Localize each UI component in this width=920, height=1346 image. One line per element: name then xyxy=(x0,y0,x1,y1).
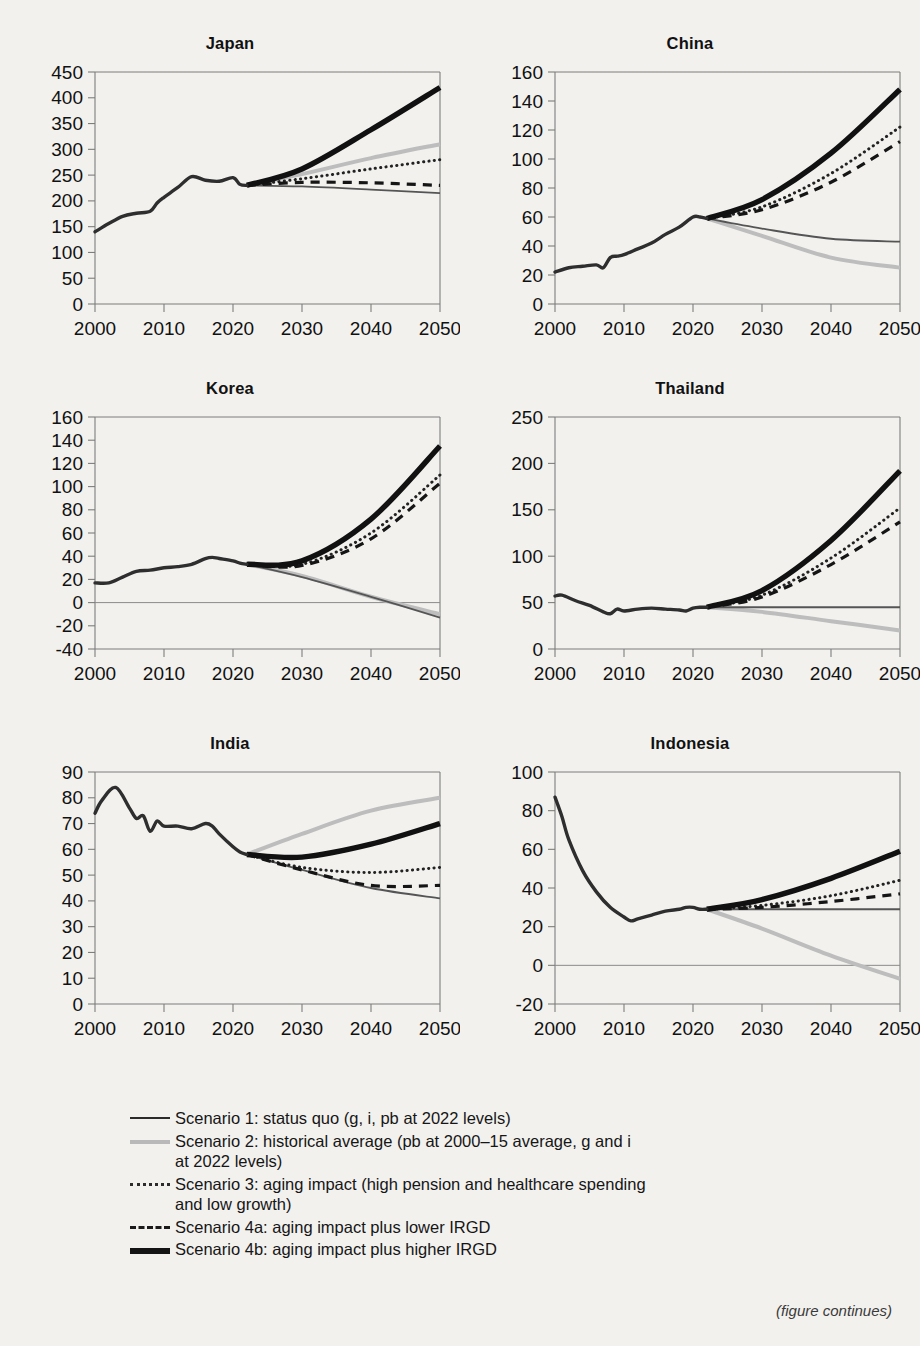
svg-text:40: 40 xyxy=(62,890,83,911)
plot-korea: -40-200204060801001201401602000201020202… xyxy=(0,401,460,701)
panel-china: China 0204060801001201401602000201020202… xyxy=(460,28,920,373)
panel-india: India 0102030405060708090200020102020203… xyxy=(0,728,460,1083)
legend-key-scenario-1-icon xyxy=(128,1108,172,1128)
panel-title-korea: Korea xyxy=(0,379,460,398)
plot-indonesia: -20020406080100200020102020203020402050 xyxy=(460,756,920,1056)
legend-item-scenario-4a: Scenario 4a: aging impact plus lower IRG… xyxy=(0,1217,920,1238)
svg-text:-20: -20 xyxy=(56,615,83,636)
svg-text:2000: 2000 xyxy=(74,318,116,339)
svg-text:2040: 2040 xyxy=(810,318,852,339)
plot-thailand: 050100150200250200020102020203020402050 xyxy=(460,401,920,701)
svg-text:0: 0 xyxy=(72,592,83,613)
legend-line-2: at 2022 levels) xyxy=(175,1151,631,1172)
legend-line-1: Scenario 2: historical average (pb at 20… xyxy=(175,1132,631,1150)
svg-text:2040: 2040 xyxy=(350,663,392,684)
svg-text:2050: 2050 xyxy=(419,663,460,684)
svg-text:2020: 2020 xyxy=(212,318,254,339)
svg-text:2040: 2040 xyxy=(350,318,392,339)
panel-title-india: India xyxy=(0,734,460,753)
svg-text:60: 60 xyxy=(62,839,83,860)
svg-text:100: 100 xyxy=(51,242,83,263)
svg-text:150: 150 xyxy=(511,499,543,520)
panel-korea: Korea -40-200204060801001201401602000201… xyxy=(0,373,460,728)
figure-page: Japan 0501001502002503003504004502000201… xyxy=(0,0,920,1346)
svg-text:50: 50 xyxy=(62,865,83,886)
svg-text:40: 40 xyxy=(522,236,543,257)
svg-text:2050: 2050 xyxy=(879,318,920,339)
svg-text:2050: 2050 xyxy=(879,663,920,684)
svg-text:160: 160 xyxy=(51,407,83,428)
svg-text:100: 100 xyxy=(511,546,543,567)
svg-text:2010: 2010 xyxy=(143,663,185,684)
legend-key-scenario-4b-icon xyxy=(128,1239,172,1259)
legend-key-scenario-4a-icon xyxy=(128,1217,172,1237)
svg-text:2020: 2020 xyxy=(672,1018,714,1039)
svg-text:60: 60 xyxy=(522,207,543,228)
legend-item-scenario-2: Scenario 2: historical average (pb at 20… xyxy=(0,1131,920,1172)
legend-item-scenario-3: Scenario 3: aging impact (high pension a… xyxy=(0,1174,920,1215)
legend-key-scenario-2-icon xyxy=(128,1131,172,1151)
svg-text:0: 0 xyxy=(532,955,543,976)
panel-title-indonesia: Indonesia xyxy=(460,734,920,753)
svg-text:50: 50 xyxy=(62,268,83,289)
panel-grid: Japan 0501001502002503003504004502000201… xyxy=(0,28,920,1083)
svg-text:2030: 2030 xyxy=(281,663,323,684)
svg-text:200: 200 xyxy=(511,453,543,474)
svg-text:60: 60 xyxy=(62,523,83,544)
svg-text:2030: 2030 xyxy=(741,318,783,339)
svg-text:20: 20 xyxy=(62,569,83,590)
svg-text:30: 30 xyxy=(62,916,83,937)
svg-text:2000: 2000 xyxy=(534,318,576,339)
svg-text:2050: 2050 xyxy=(879,1018,920,1039)
svg-text:60: 60 xyxy=(522,839,543,860)
svg-text:2030: 2030 xyxy=(741,1018,783,1039)
svg-text:2020: 2020 xyxy=(672,318,714,339)
svg-text:150: 150 xyxy=(51,216,83,237)
svg-text:2030: 2030 xyxy=(281,1018,323,1039)
legend-item-scenario-1: Scenario 1: status quo (g, i, pb at 2022… xyxy=(0,1108,920,1129)
panel-title-thailand: Thailand xyxy=(460,379,920,398)
svg-text:2010: 2010 xyxy=(603,663,645,684)
legend-line-1: Scenario 1: status quo (g, i, pb at 2022… xyxy=(175,1109,511,1127)
svg-text:-20: -20 xyxy=(516,994,543,1015)
svg-text:2040: 2040 xyxy=(810,1018,852,1039)
svg-text:2050: 2050 xyxy=(419,1018,460,1039)
plot-india: 0102030405060708090200020102020203020402… xyxy=(0,756,460,1056)
svg-text:350: 350 xyxy=(51,113,83,134)
svg-text:0: 0 xyxy=(532,639,543,660)
legend-label-scenario-2: Scenario 2: historical average (pb at 20… xyxy=(175,1131,631,1172)
legend-item-scenario-4b: Scenario 4b: aging impact plus higher IR… xyxy=(0,1239,920,1260)
svg-text:0: 0 xyxy=(532,294,543,315)
svg-text:2010: 2010 xyxy=(603,318,645,339)
svg-text:2000: 2000 xyxy=(74,1018,116,1039)
svg-text:2010: 2010 xyxy=(603,1018,645,1039)
svg-text:120: 120 xyxy=(511,120,543,141)
svg-text:200: 200 xyxy=(51,190,83,211)
legend-line-1: Scenario 4a: aging impact plus lower IRG… xyxy=(175,1218,490,1236)
svg-text:2020: 2020 xyxy=(672,663,714,684)
svg-text:2000: 2000 xyxy=(74,663,116,684)
figure-continues-note: (figure continues) xyxy=(776,1302,892,1319)
svg-text:2030: 2030 xyxy=(741,663,783,684)
svg-text:160: 160 xyxy=(511,62,543,83)
legend-line-2: and low growth) xyxy=(175,1194,646,1215)
svg-text:2000: 2000 xyxy=(534,1018,576,1039)
svg-text:2020: 2020 xyxy=(212,663,254,684)
svg-text:400: 400 xyxy=(51,87,83,108)
panel-japan: Japan 0501001502002503003504004502000201… xyxy=(0,28,460,373)
svg-text:10: 10 xyxy=(62,968,83,989)
legend-label-scenario-3: Scenario 3: aging impact (high pension a… xyxy=(175,1174,646,1215)
svg-text:100: 100 xyxy=(51,476,83,497)
svg-text:100: 100 xyxy=(511,762,543,783)
svg-text:70: 70 xyxy=(62,813,83,834)
svg-text:2050: 2050 xyxy=(419,318,460,339)
panel-title-china: China xyxy=(460,34,920,53)
svg-text:450: 450 xyxy=(51,62,83,83)
figure-legend: Scenario 1: status quo (g, i, pb at 2022… xyxy=(0,1108,920,1262)
svg-text:300: 300 xyxy=(51,139,83,160)
plot-japan: 0501001502002503003504004502000201020202… xyxy=(0,56,460,356)
svg-text:20: 20 xyxy=(522,916,543,937)
svg-text:140: 140 xyxy=(51,430,83,451)
svg-text:80: 80 xyxy=(522,800,543,821)
legend-line-1: Scenario 4b: aging impact plus higher IR… xyxy=(175,1240,497,1258)
